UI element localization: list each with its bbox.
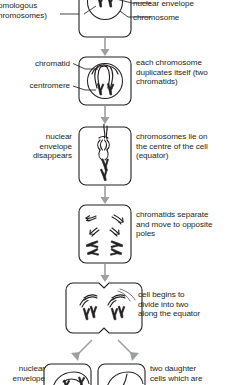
flow-arrow-1: [101, 38, 110, 56]
label-cell-division: cell begins to divide into two along the…: [138, 290, 226, 319]
stage-2-cell: [73, 57, 131, 105]
stage-5-cell: [66, 283, 142, 333]
flow-arrow-2: [101, 106, 110, 124]
label-daughter-cells: two daughter cells which are: [150, 364, 226, 383]
label-chromosome-duplication: each chromosome duplicates itself (two c…: [136, 58, 226, 87]
label-equator: chromosomes lie on the centre of the cel…: [136, 132, 226, 161]
label-homologous-chromosomes: omologous hromosomes): [0, 1, 60, 20]
flow-arrow-5-left: [71, 340, 92, 361]
label-centromere: centromere: [2, 81, 70, 91]
flow-arrow-3: [101, 186, 110, 204]
label-envelope-reforms: nuclear envelope: [1, 364, 45, 383]
label-chromosome: chromosome: [133, 13, 225, 23]
stage-6-daughter-cell-left: [44, 364, 91, 385]
flow-arrow-5-right: [118, 340, 139, 361]
mitosis-diagram: omologous hromosomes) nuclear envelope c…: [0, 0, 227, 385]
label-envelope-disappears: nuclear envelope disappears: [16, 132, 72, 161]
stage-4-cell: [79, 205, 131, 263]
stage-6-daughter-cell-right: [98, 364, 145, 385]
flow-arrow-4: [101, 264, 110, 282]
stage-3-cell: [79, 124, 131, 185]
label-nuclear-envelope: nuclear envelope: [133, 0, 225, 9]
label-chromatid: chromatid: [2, 59, 70, 69]
label-chromatid-separation: chromatids separate and move to opposite…: [136, 210, 226, 239]
